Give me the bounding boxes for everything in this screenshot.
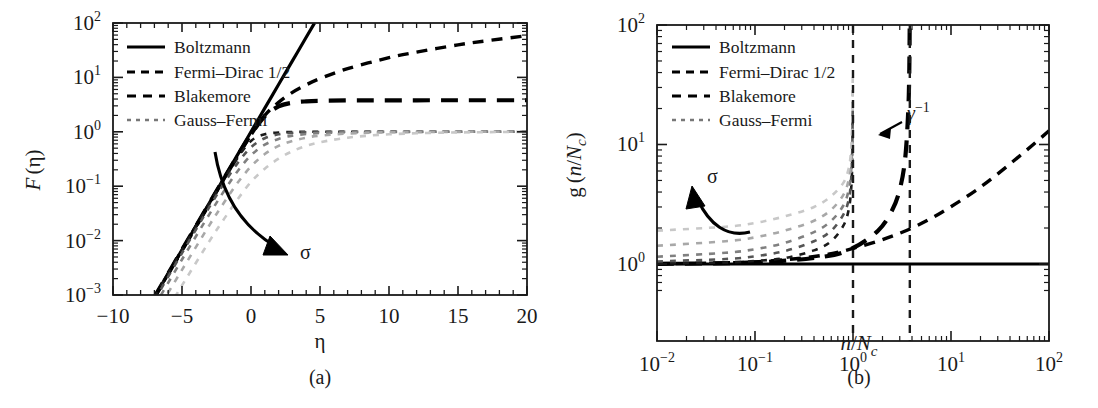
xtick-label-a: −5 xyxy=(171,304,193,328)
panel-a-svg: −10−50510152010210110010−110−210−3 σ Bol… xyxy=(0,0,549,408)
ytick-label-a: 101 xyxy=(73,63,101,89)
ylabel-a-arg: (η) xyxy=(21,150,45,175)
series-blakemore xyxy=(657,25,910,264)
legend-a: Boltzmann Fermi–Dirac 1/2 Blakemore Gaus… xyxy=(127,37,290,130)
series-gauss-fermi-sigma4 xyxy=(154,132,527,316)
legend-label-boltzmann-a: Boltzmann xyxy=(174,37,251,57)
svg-text:F(η): F(η) xyxy=(21,150,45,192)
legend-b: Boltzmann Fermi–Dirac 1/2 Blakemore Gaus… xyxy=(672,37,835,130)
legend-label-blakemore-a: Blakemore xyxy=(174,86,251,106)
gamma-inverse-label: γ−1 xyxy=(907,100,930,125)
series-gauss-fermi-sigma2 xyxy=(154,132,527,300)
sigma-label-a: σ xyxy=(300,241,311,263)
panel-a-xlabel: η xyxy=(315,329,326,353)
panel-b: 10−210−1100101102102101100 σ γ−1 Boltzma… xyxy=(549,0,1098,408)
panel-b-ylabel: g(n/Nc) xyxy=(562,132,589,198)
sigma-label-b: σ xyxy=(707,165,718,187)
ytick-label-a: 102 xyxy=(73,9,101,35)
panel-a-caption: (a) xyxy=(309,366,331,389)
xtick-label-b: 102 xyxy=(1035,350,1063,376)
series-gauss-fermi-sigma5 xyxy=(154,132,527,331)
ytick-label-a: 100 xyxy=(73,118,101,144)
gamma-inverse-annotation: γ−1 xyxy=(878,100,930,139)
ytick-label-a: 10−2 xyxy=(65,227,101,253)
series-gauss-fermi-sigma4 xyxy=(657,84,853,246)
panel-a-tick-labels: −10−50510152010210110010−110−210−3 xyxy=(65,9,537,328)
legend-label-fermi-dirac-a: Fermi–Dirac 1/2 xyxy=(174,62,290,82)
xtick-label-a: 15 xyxy=(448,304,469,328)
xtick-label-b: 101 xyxy=(937,350,965,376)
ytick-label-b: 101 xyxy=(617,130,645,156)
ytick-label-a: 10−1 xyxy=(65,172,101,198)
xtick-label-b: 10−1 xyxy=(737,350,773,376)
panel-b-tick-labels: 10−210−1100101102102101100 xyxy=(617,11,1063,376)
sigma-arrow-annotation-b: σ xyxy=(686,165,750,233)
series-gauss-fermi-sigma3 xyxy=(154,132,527,306)
panel-a: −10−50510152010210110010−110−210−3 σ Bol… xyxy=(0,0,549,408)
xtick-label-a: 5 xyxy=(315,304,326,328)
ylabel-a-fn: F xyxy=(21,177,45,191)
xtick-label-a: 0 xyxy=(246,304,257,328)
figure-container: −10−50510152010210110010−110−210−3 σ Bol… xyxy=(0,0,1098,408)
ytick-label-b: 102 xyxy=(617,11,645,37)
svg-text:g(n/Nc): g(n/Nc) xyxy=(562,132,589,198)
panel-b-caption: (b) xyxy=(847,366,870,389)
legend-label-fermi-dirac-b: Fermi–Dirac 1/2 xyxy=(719,62,835,82)
panel-a-ylabel: F(η) xyxy=(21,150,45,192)
panel-b-svg: 10−210−1100101102102101100 σ γ−1 Boltzma… xyxy=(549,0,1098,408)
panel-b-xlabel: n/Nc xyxy=(840,331,877,359)
series-gauss-fermi-sigma1 xyxy=(657,114,853,263)
ytick-label-b: 100 xyxy=(617,250,645,276)
legend-label-blakemore-b: Blakemore xyxy=(719,86,796,106)
legend-label-boltzmann-b: Boltzmann xyxy=(719,37,796,57)
legend-label-gauss-fermi-b: Gauss–Fermi xyxy=(719,110,812,130)
xtick-label-a: 20 xyxy=(517,304,538,328)
xtick-label-a: 10 xyxy=(379,304,400,328)
legend-label-gauss-fermi-a: Gauss–Fermi xyxy=(174,110,267,130)
xtick-label-b: 10−2 xyxy=(639,350,675,376)
xtick-label-a: −10 xyxy=(97,304,130,328)
